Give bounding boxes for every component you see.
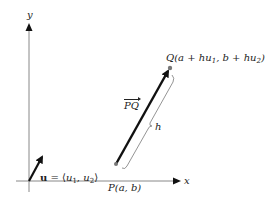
x-axis-label: x (184, 176, 190, 186)
length-h-label: h (155, 122, 161, 132)
vector-pq-label: PQ (124, 101, 139, 111)
y-axis-label: y (27, 10, 33, 20)
point-q-label: Q(a + hu1, b + hu2) (166, 53, 265, 65)
vector-pq (116, 71, 168, 164)
length-brace (122, 75, 174, 169)
point-p (114, 162, 118, 166)
x-axis-arrow-icon (173, 178, 181, 185)
unit-vector-label: u = ⟨u1, u2⟩ (40, 173, 98, 185)
point-p-label: P(a, b) (108, 183, 141, 193)
y-axis-arrow-icon (26, 23, 33, 31)
point-q (168, 66, 172, 70)
